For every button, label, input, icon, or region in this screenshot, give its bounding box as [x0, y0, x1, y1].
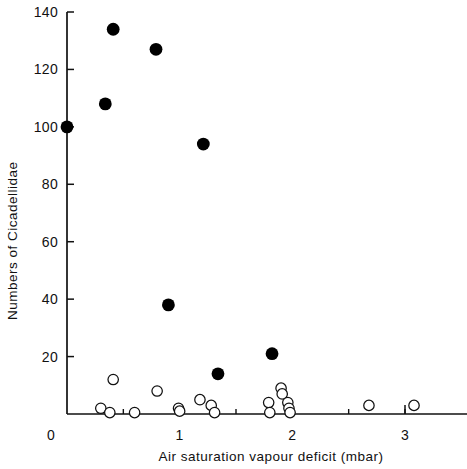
y-tick-label: 20 [42, 349, 58, 365]
data-point [105, 407, 115, 417]
data-point [150, 43, 163, 56]
data-point [174, 406, 184, 416]
x-tick-label: 3 [401, 427, 409, 443]
data-point [61, 120, 74, 133]
x-tick-label: 1 [176, 427, 184, 443]
y-tick-label: 60 [42, 234, 58, 250]
y-tick-label: 80 [42, 176, 58, 192]
data-point [108, 374, 118, 384]
y-tick-label: 140 [34, 4, 58, 20]
data-point [209, 407, 219, 417]
data-point [265, 407, 275, 417]
data-point [152, 386, 162, 396]
data-point [364, 400, 374, 410]
x-tick-label: 2 [288, 427, 296, 443]
plot-canvas: Numbers of Cicadellidae Air saturation v… [0, 0, 467, 469]
x-axis-tick-labels: 123 [176, 427, 409, 443]
y-axis-tick-labels: 020406080100120140 [34, 4, 58, 443]
y-axis-ticks [67, 12, 74, 357]
y-tick-label: 120 [34, 61, 58, 77]
data-point [285, 407, 295, 417]
data-point [263, 397, 273, 407]
data-point [212, 367, 225, 380]
x-axis-title: Air saturation vapour deficit (mbar) [158, 449, 383, 464]
scatter-plot-figure: Numbers of Cicadellidae Air saturation v… [0, 0, 467, 469]
data-point [107, 23, 120, 36]
data-point [129, 407, 139, 417]
data-point [162, 298, 175, 311]
filled-circle-series [61, 23, 279, 380]
data-point [266, 347, 279, 360]
y-tick-label: 100 [34, 119, 58, 135]
open-circle-series [96, 374, 420, 417]
data-point [409, 400, 419, 410]
y-tick-label: 0 [47, 427, 55, 443]
y-axis-title: Numbers of Cicadellidae [5, 161, 20, 320]
y-tick-label: 40 [42, 291, 58, 307]
data-point [197, 138, 210, 151]
data-point [195, 394, 205, 404]
data-point [99, 97, 112, 110]
